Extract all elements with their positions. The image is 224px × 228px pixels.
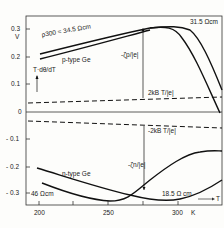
y-tick-0.1: 0.1 — [11, 80, 20, 87]
x-tick-250: 250 — [103, 209, 114, 216]
t-arrow-head-icon — [212, 198, 215, 201]
x-var-label: T — [216, 195, 220, 202]
kt-positive-label: 2kB T/|e| — [148, 89, 174, 97]
y-tick-0: 0 — [18, 108, 22, 115]
kt-positive-dashed — [28, 97, 222, 103]
zeta-p-label: -ζp/|e| — [121, 51, 139, 59]
x-unit-label: K — [191, 209, 196, 216]
y-tick-neg0.3: - 0.3 — [6, 189, 19, 196]
y-tick-0.2: 0.2 — [11, 53, 20, 60]
kt-negative-dashed — [28, 121, 222, 128]
p-type-label: p-type Ge — [62, 56, 91, 64]
rho-n2-label: 18.5 Ω cm — [162, 190, 192, 197]
rho-n1-label: 46 Ωcm — [31, 190, 54, 197]
p-type-curve-34.5 — [40, 27, 220, 113]
chart-canvas: 0.3 V 0.2 0.1 0 - 0.1 - 0.2 - 0.3 200 25… — [0, 0, 224, 228]
rho-p1-label: ρ300 = 34.5 Ωcm — [41, 22, 92, 39]
n-type-label: n-type Ge — [62, 170, 91, 178]
x-tick-200: 200 — [34, 209, 45, 216]
y-tick-neg0.1: - 0.1 — [6, 135, 19, 142]
kt-negative-label: -2kB T/|e| — [148, 127, 176, 135]
plot-frame — [26, 16, 222, 205]
y-tick-0.3: 0.3 — [11, 25, 20, 32]
rho-p2-label: 31.5 Ωcm — [190, 18, 218, 25]
y-tick-neg0.2: - 0.2 — [6, 163, 19, 170]
zeta-n-label: -ζn/|e| — [128, 161, 146, 169]
y-axis-ticks — [26, 29, 30, 193]
y-unit-label: V — [15, 33, 20, 40]
x-tick-300: 300 — [172, 209, 183, 216]
p-type-curve-31.5 — [150, 27, 222, 90]
tdtheta-label: T·dθ/dT — [33, 66, 56, 73]
tdtheta-arrow-head-icon — [36, 75, 39, 79]
zeta-n-arrow-head-icon — [143, 187, 146, 190]
